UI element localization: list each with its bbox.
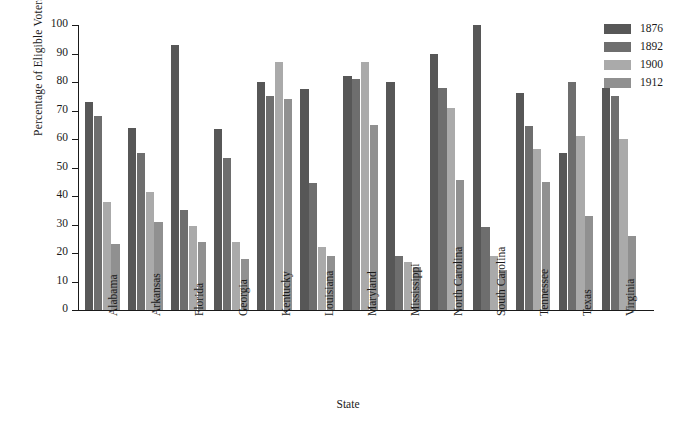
bar <box>171 45 179 310</box>
y-tick-label: 30 <box>28 218 68 230</box>
bar <box>137 153 145 310</box>
bar <box>438 88 446 310</box>
y-tick-label: 20 <box>28 246 68 258</box>
y-tick-mark <box>72 253 78 254</box>
x-tick-label: Louisiana <box>323 271 335 316</box>
x-tick-label: North Carolina <box>452 247 464 316</box>
x-tick-label: Georgia <box>237 279 249 316</box>
bar <box>481 227 489 310</box>
bar <box>266 96 274 310</box>
y-tick-label: 50 <box>28 161 68 173</box>
legend-swatch <box>604 78 631 88</box>
y-tick-label: 100 <box>28 18 68 30</box>
legend-swatch <box>604 60 631 70</box>
x-tick-label: Tennessee <box>538 269 550 316</box>
x-tick-label: Texas <box>581 289 593 316</box>
y-tick-label: 90 <box>28 47 68 59</box>
y-tick-mark <box>72 282 78 283</box>
x-tick-label: Virginia <box>624 279 636 316</box>
bar-group <box>171 25 206 310</box>
bar-group <box>559 25 594 310</box>
legend-label: 1876 <box>640 23 663 35</box>
y-tick-mark <box>72 168 78 169</box>
y-tick-label: 40 <box>28 189 68 201</box>
bar <box>395 256 403 310</box>
y-tick-mark <box>72 225 78 226</box>
bar-group <box>343 25 378 310</box>
bar <box>525 126 533 310</box>
bar <box>602 88 610 310</box>
bar <box>300 89 308 310</box>
bar <box>257 82 265 310</box>
y-tick-mark <box>72 111 78 112</box>
bar <box>559 153 567 310</box>
y-tick-mark <box>72 196 78 197</box>
y-tick-mark <box>72 82 78 83</box>
bar <box>223 158 231 310</box>
bar <box>94 116 102 310</box>
y-tick-mark <box>72 310 78 311</box>
bar <box>343 76 351 310</box>
y-tick-mark <box>72 25 78 26</box>
bar <box>85 102 93 310</box>
bar <box>352 79 360 310</box>
bar-group <box>300 25 335 310</box>
legend-item: 1876 <box>604 22 684 36</box>
x-axis-title: State <box>0 398 696 410</box>
legend-item: 1892 <box>604 40 684 54</box>
legend-label: 1892 <box>640 41 663 53</box>
bar <box>309 183 317 310</box>
x-tick-label: Kentucky <box>280 271 292 316</box>
legend-item: 1912 <box>604 76 684 90</box>
legend-label: 1900 <box>640 59 663 71</box>
legend-item: 1900 <box>604 58 684 72</box>
bar <box>214 129 222 310</box>
bar <box>568 82 576 310</box>
bar <box>576 136 584 310</box>
y-tick-label: 60 <box>28 132 68 144</box>
bar-group <box>128 25 163 310</box>
legend-swatch <box>604 42 631 52</box>
plot-area <box>79 25 654 310</box>
y-tick-label: 10 <box>28 275 68 287</box>
x-tick-label: Maryland <box>366 271 378 316</box>
bar-chart: Percentage of Eligible Voters 0102030405… <box>0 0 696 429</box>
bar <box>128 128 136 310</box>
bar <box>180 210 188 310</box>
y-tick-label: 70 <box>28 104 68 116</box>
bar-group <box>85 25 120 310</box>
legend: 1876189219001912 <box>604 22 684 94</box>
bar <box>473 25 481 310</box>
legend-swatch <box>604 24 631 34</box>
bar-group <box>516 25 551 310</box>
x-tick-label: Mississippi <box>409 264 421 316</box>
y-tick-label: 0 <box>28 303 68 315</box>
x-tick-label: Florida <box>193 283 205 316</box>
bar <box>430 54 438 311</box>
x-tick-label: South Carolina <box>495 247 507 316</box>
bar-group <box>257 25 292 310</box>
y-tick-label: 80 <box>28 75 68 87</box>
x-tick-label: Arkansas <box>150 273 162 316</box>
x-tick-label: Alabama <box>107 274 119 316</box>
bar-group <box>214 25 249 310</box>
bar <box>386 82 394 310</box>
y-tick-mark <box>72 54 78 55</box>
bar <box>516 93 524 310</box>
bar <box>611 96 619 310</box>
y-tick-mark <box>72 139 78 140</box>
legend-label: 1912 <box>640 77 663 89</box>
